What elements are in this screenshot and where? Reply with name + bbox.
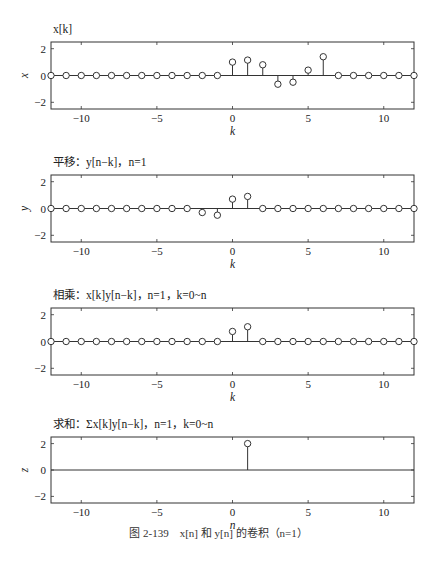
y-tick-label: 2 [41,43,47,55]
stem-marker [381,72,387,78]
stem-marker [48,205,54,211]
stem-marker [290,338,296,344]
x-tick-label: −5 [151,245,163,257]
subplot-3: −10−50510−202相乘：x[k]y[n−k]，n=1，k=0~nk [34,288,417,403]
stem-marker [229,196,235,202]
figure-caption: 图 2-139 x[n] 和 y[n] 的卷积（n=1） [0,524,437,540]
subplot-title: 平移：y[n−k]，n=1 [53,156,147,169]
stem-marker [396,338,402,344]
stem-marker [154,338,160,344]
subplot-4: −10−50510−202求和：Σx[k]y[n−k]，n=1，k=0~nnz [18,418,414,531]
stem-marker [396,72,402,78]
stem-marker [48,338,54,344]
stem-marker [260,338,266,344]
x-axis-label: k [230,125,236,137]
stem-marker [108,338,114,344]
x-tick-label: 10 [378,112,390,124]
stem-marker [275,81,281,87]
x-tick-label: 0 [230,378,236,390]
stem-marker [290,205,296,211]
y-tick-label: 2 [41,309,47,321]
stem-marker [154,205,160,211]
stem-marker [123,338,129,344]
x-tick-label: 0 [230,112,236,124]
stem-marker [244,57,250,63]
stem-marker [335,72,341,78]
x-tick-label: −10 [73,245,91,257]
x-tick-label: −10 [73,506,91,518]
x-tick-label: −5 [151,378,163,390]
y-tick-label: 2 [41,438,47,450]
x-tick-label: 5 [305,378,311,390]
stem-marker [93,205,99,211]
stem-marker [260,205,266,211]
stem-marker [48,72,54,78]
stem-marker [244,193,250,199]
stem-marker [214,338,220,344]
stem-marker [244,324,250,330]
stem-marker [350,338,356,344]
y-axis-label: y [18,205,31,212]
stem-marker [365,72,371,78]
y-tick-label: 2 [41,176,47,188]
stem-marker [63,72,69,78]
stem-marker [184,338,190,344]
stem-marker [275,338,281,344]
stem-marker [139,338,145,344]
x-tick-label: 5 [305,506,311,518]
subplot-title: 相乘：x[k]y[n−k]，n=1，k=0~n [53,288,207,302]
caption-prefix: 图 2-139 [129,527,168,539]
x-tick-label: 5 [305,245,311,257]
stem-marker [93,338,99,344]
stem-marker [199,72,205,78]
stem-marker [275,205,281,211]
x-tick-label: 5 [305,112,311,124]
stem-marker [411,338,417,344]
caption-text: x[n] 和 y[n] 的卷积（n=1） [180,527,308,539]
subplot-1: −10−50510−202x[k]kx [18,23,417,137]
stem-marker [63,205,69,211]
y-tick-label: −2 [34,96,46,108]
stem-marker [411,205,417,211]
y-tick-label: 0 [41,464,47,476]
stem-marker [139,72,145,78]
y-tick-label: 0 [41,336,47,348]
stem-marker [184,205,190,211]
stem-marker [214,72,220,78]
stem-marker [411,72,417,78]
x-tick-label: 10 [378,378,390,390]
stem-marker [305,67,311,73]
stem-marker [244,440,250,446]
x-axis-label: k [230,258,236,270]
y-tick-label: 0 [41,70,47,82]
stem-marker [199,209,205,215]
stem-marker [290,79,296,85]
y-tick-label: 0 [41,203,47,215]
x-tick-label: −5 [151,112,163,124]
stem-marker [305,205,311,211]
stem-marker [169,72,175,78]
stem-marker [214,212,220,218]
stem-marker [63,338,69,344]
y-tick-label: −2 [34,490,46,502]
stem-marker [123,72,129,78]
stem-marker [154,72,160,78]
stem-marker [169,205,175,211]
stem-marker [260,62,266,68]
x-tick-label: −10 [73,378,91,390]
stem-marker [320,54,326,60]
x-tick-label: 0 [230,245,236,257]
y-axis-label: z [18,467,30,473]
stem-marker [335,338,341,344]
stem-marker [78,338,84,344]
stem-marker [320,205,326,211]
stem-marker [335,205,341,211]
x-tick-label: −10 [73,112,91,124]
stem-marker [381,338,387,344]
stem-marker [229,328,235,334]
stem-marker [365,338,371,344]
x-tick-label: 0 [230,506,236,518]
x-tick-label: 10 [378,506,390,518]
subplot-2: −10−50510−202平移：y[n−k]，n=1ky [18,156,417,270]
stem-marker [123,205,129,211]
